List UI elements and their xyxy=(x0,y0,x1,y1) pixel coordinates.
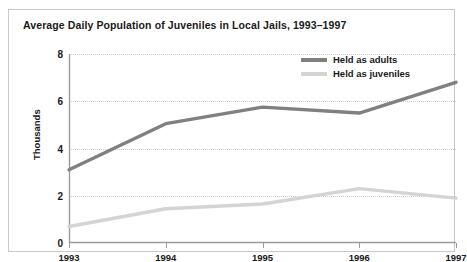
series-line-held-as-juveniles xyxy=(69,189,456,227)
legend-label-juveniles: Held as juveniles xyxy=(333,68,410,79)
x-tick-label-1993: 1993 xyxy=(58,252,79,262)
x-tick-mark-1995 xyxy=(263,243,264,248)
chart-title: Average Daily Population of Juveniles in… xyxy=(23,19,346,31)
x-tick-mark-1996 xyxy=(359,243,360,248)
x-tick-label-1996: 1996 xyxy=(349,252,370,262)
y-tick-label-2: 2 xyxy=(57,190,63,201)
x-tick-label-1995: 1995 xyxy=(252,252,273,262)
x-tick-label-1997: 1997 xyxy=(445,252,466,262)
x-tick-mark-1997 xyxy=(456,243,457,248)
y-tick-label-8: 8 xyxy=(57,49,63,60)
y-tick-label-6: 6 xyxy=(57,96,63,107)
chart-legend: Held as adults Held as juveniles xyxy=(301,54,410,79)
legend-swatch-juveniles xyxy=(301,72,327,76)
x-tick-mark-1994 xyxy=(166,243,167,248)
data-series-group xyxy=(69,54,456,243)
legend-item-held-as-juveniles[interactable]: Held as juveniles xyxy=(301,68,410,79)
chart-figure: Average Daily Population of Juveniles in… xyxy=(8,9,455,252)
x-tick-label-1994: 1994 xyxy=(155,252,176,262)
legend-item-held-as-adults[interactable]: Held as adults xyxy=(301,54,410,65)
y-tick-label-4: 4 xyxy=(57,143,63,154)
x-tick-mark-1993 xyxy=(69,243,70,248)
y-tick-label-0: 0 xyxy=(57,238,63,249)
legend-swatch-adults xyxy=(301,58,327,62)
legend-label-adults: Held as adults xyxy=(333,54,397,65)
plot-area: 0246819931994199519961997 xyxy=(69,54,456,243)
series-line-held-as-adults xyxy=(69,82,456,169)
y-axis-title: Thousands xyxy=(31,109,42,160)
